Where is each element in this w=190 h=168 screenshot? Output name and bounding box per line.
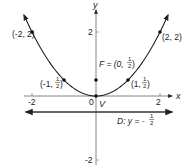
y-tick-label: 2 (88, 27, 93, 37)
point-p-pos1 (126, 78, 130, 82)
point-label-pos1-close: ) (147, 79, 150, 89)
point-label-neg1-text: (-1, (40, 79, 53, 89)
directrix-frac-num: 1 (150, 113, 154, 119)
directrix-fraction: 1 2 (149, 113, 154, 126)
point-label-neg1: (-1, 1 2 ) (40, 76, 63, 89)
x-tick-label: 2 (156, 97, 161, 107)
y-tick-label: -2 (85, 155, 93, 165)
directrix-label-text: D: y = - (117, 116, 145, 126)
focus-label: F = (0, 1 2 ) (99, 56, 135, 69)
focus-label-close: ) (132, 59, 135, 69)
point-label-pos1: (1, 1 2 ) (131, 76, 150, 89)
x-tick-label: -2 (28, 97, 36, 107)
y-axis-label: y (92, 0, 98, 10)
vertex-point (94, 94, 98, 98)
directrix-label: D: y = - (117, 116, 145, 126)
point-label-pos1-text: (1, (131, 79, 141, 89)
x-axis-label: x (175, 91, 181, 101)
point-label-neg1-close: ) (60, 79, 63, 89)
directrix-frac-den: 2 (150, 120, 154, 126)
parabola-diagram: y x -2022-2 D: y = - 1 2 (-2, 2) (2, 2) … (0, 0, 190, 168)
focus-point (94, 78, 98, 82)
vertex-label: V (99, 99, 106, 109)
point-label-pos2: (2, 2) (162, 32, 182, 42)
focus-label-text: F = (0, (99, 59, 124, 69)
x-tick-label: 0 (89, 97, 94, 107)
point-label-neg2: (-2, 2) (12, 29, 35, 39)
